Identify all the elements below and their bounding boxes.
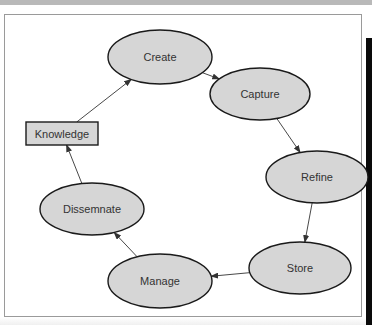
- node-refine: Refine: [266, 151, 368, 203]
- node-create: Create: [108, 30, 212, 84]
- arrow-knowledge-to-create: [77, 79, 131, 122]
- node-dissemnate: Dissemnate: [40, 183, 144, 235]
- node-label: Store: [287, 262, 313, 274]
- node-label: Capture: [240, 88, 279, 100]
- knowledge-cycle-diagram: Create Capture Refine Store Manage Disse…: [0, 0, 372, 325]
- arrow-capture-to-refine: [277, 118, 300, 152]
- arrow-store-to-manage: [211, 273, 250, 277]
- node-manage: Manage: [108, 254, 212, 308]
- arrow-manage-to-dissemnate: [114, 233, 137, 257]
- node-label: Dissemnate: [63, 203, 121, 215]
- node-label: Refine: [301, 171, 333, 183]
- arrow-dissemnate-to-knowledge: [67, 145, 82, 183]
- node-label: Create: [143, 51, 176, 63]
- node-store: Store: [249, 242, 351, 294]
- arrow-create-to-capture: [202, 73, 219, 79]
- node-label: Manage: [140, 275, 180, 287]
- node-label: Knowledge: [35, 128, 89, 140]
- node-capture: Capture: [210, 68, 310, 120]
- arrow-refine-to-store: [305, 203, 312, 242]
- node-knowledge: Knowledge: [26, 122, 98, 145]
